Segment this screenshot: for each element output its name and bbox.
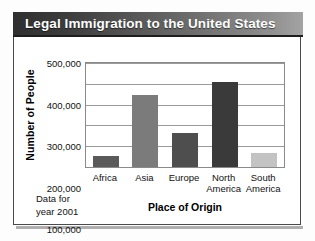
x-tick-label-africa: Africa: [85, 172, 125, 183]
bar-asia: [132, 95, 158, 167]
bar-africa: [93, 156, 119, 167]
x-tick-label-line: Asia: [125, 172, 165, 183]
x-tick-label-line: South: [243, 172, 283, 183]
title-underline: [13, 35, 303, 37]
y-tick-label: 300,000: [47, 141, 81, 152]
y-tick-label: 400,000: [47, 99, 81, 110]
y-tick-label: 100,000: [47, 224, 81, 235]
x-tick-label-line: America: [204, 183, 244, 194]
x-tick-label-asia: Asia: [125, 172, 165, 183]
plot-area: 100,000200,000300,000400,000500,000: [85, 62, 285, 168]
data-year-note: Data for year 2001: [36, 193, 78, 218]
x-axis-tick-labels: AfricaAsiaEuropeNorthAmericaSouthAmerica: [85, 170, 285, 196]
x-tick-label-north-america: NorthAmerica: [204, 172, 244, 194]
bar-series: [86, 63, 284, 167]
chart-card: Legal Immigration to the United States N…: [13, 12, 301, 225]
bar-north-america: [212, 82, 238, 167]
y-tick-label: 200,000: [47, 182, 81, 193]
x-tick-label-south-america: SouthAmerica: [243, 172, 283, 194]
x-tick-label-line: America: [243, 183, 283, 194]
bar-south-america: [251, 153, 277, 167]
x-axis-title: Place of Origin: [85, 201, 285, 213]
x-tick-label-europe: Europe: [164, 172, 204, 183]
bar-europe: [172, 133, 198, 167]
y-axis-title: Number of People: [23, 62, 37, 168]
x-tick-label-line: Europe: [164, 172, 204, 183]
y-tick-label: 500,000: [47, 58, 81, 69]
chart-title-bar: Legal Immigration to the United States: [13, 12, 303, 35]
screenshot-root: Legal Immigration to the United States N…: [0, 0, 315, 241]
note-line-1: Data for: [36, 193, 78, 206]
x-tick-label-line: Africa: [85, 172, 125, 183]
x-tick-label-line: North: [204, 172, 244, 183]
note-line-2: year 2001: [36, 206, 78, 219]
chart-title: Legal Immigration to the United States: [25, 16, 276, 31]
